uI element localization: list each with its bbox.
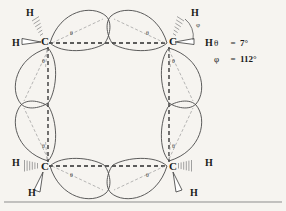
angle-label-theta-top-right: θ [146,30,149,36]
lobe-stub-top-left [46,49,48,68]
atom-label-h-bottom-right-lower: H [190,188,198,198]
hashed-wedge-bottom-right [179,160,192,172]
lobe-bottom-right [107,158,167,198]
legend-symbol-theta: θ [214,38,226,48]
lobe-axis-bottom-left [52,166,103,190]
atom-label-h-bottom-left-outer: H [12,158,20,168]
ring-bond-square [48,43,169,166]
lobe-right-lower [161,101,201,161]
atom-label-c-bottom-left: C [41,161,49,172]
legend-value-theta: 7° [240,38,248,48]
lobe-right-upper [161,48,201,108]
solid-wedge-top-left [22,39,41,45]
lobe-left-upper [15,48,55,108]
lobe-top-left [50,10,110,50]
legend-value-phi: 112° [240,54,257,64]
angle-label-theta-right-lower: θ [172,143,175,149]
atom-label-c-bottom-right: C [169,161,177,172]
lobe-axis-top-right [114,19,165,43]
orbital-lobes-bottom [50,158,167,198]
hashed-wedge-bottom-left [25,160,38,172]
orbital-lobes-top [50,10,167,50]
lobe-axis-right-lower [169,108,193,159]
hashed-wedge-top-left [32,17,43,36]
solid-wedge-bottom-right [173,172,182,192]
atom-label-c-top-left: C [41,36,49,47]
legend-symbol-phi: φ [214,54,226,64]
lobe-stub-bottom-left [46,141,48,160]
angle-label-theta-left-upper: θ [42,58,45,64]
lobe-top-right [107,10,167,50]
phi-angle-arc [185,19,193,40]
lobe-left-lower [15,101,55,161]
lobe-bottom-left [50,158,110,198]
legend-equals-phi: = [226,54,240,64]
atom-label-h-top-left-upper: H [26,8,34,18]
lobe-axis-bottom-right [114,166,165,190]
angle-label-theta-bottom-right: θ [146,172,149,178]
legend-row-theta: θ = 7° [214,38,257,54]
angle-label-theta-left-lower: θ [42,143,45,149]
atom-label-h-top-right-outer: H [205,38,213,48]
atom-label-h-top-left-outer: H [12,38,20,48]
orbital-ring-diagram [0,0,286,211]
atom-label-h-bottom-left-lower: H [28,188,36,198]
angle-label-theta-bottom-left: θ [70,172,73,178]
lobe-axis-top-left [52,19,103,43]
angle-label-theta-top-left: θ [70,30,73,36]
lobe-axis-left-lower [24,108,48,159]
solid-wedge-top-right [175,39,194,45]
angle-legend: θ = 7° φ = 112° [214,38,257,70]
orbital-lobes-left [15,48,55,161]
atom-label-c-top-right: C [169,36,177,47]
atom-label-h-top-right-upper: H [191,8,199,18]
hashed-wedge-top-right [173,17,184,36]
atom-label-h-bottom-right-outer: H [205,158,213,168]
legend-equals-theta: = [226,38,240,48]
legend-row-phi: φ = 112° [214,54,257,70]
angle-label-theta-right-upper: θ [172,58,175,64]
chemistry-figure: C C C C H H H H H H H H θ θ θ θ θ θ θ θ … [0,0,286,211]
angle-label-phi-top-right: φ [196,22,200,29]
orbital-lobes-right [161,48,201,161]
